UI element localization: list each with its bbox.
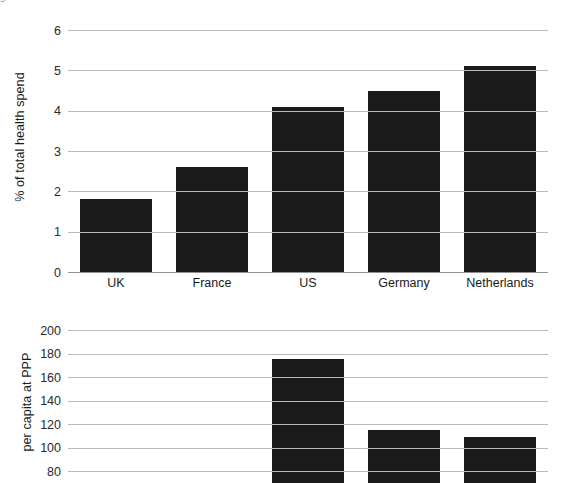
chart-per-capita-ppp: per capita at PPP 80100120140160180200 xyxy=(0,300,568,483)
plot-area-bottom: 80100120140160180200 xyxy=(68,330,548,483)
gridline: 5 xyxy=(68,70,548,71)
y-axis-label-top: % of total health spend xyxy=(13,67,27,207)
x-axis-tick-label: Netherlands xyxy=(452,276,548,290)
bar xyxy=(176,167,248,272)
gridline: 0 xyxy=(68,272,548,273)
gridline: 80 xyxy=(68,471,548,472)
x-axis-tick-label: Germany xyxy=(356,276,452,290)
y-axis-tick-label: 1 xyxy=(54,225,61,239)
x-axis-labels-top: UKFranceUSGermanyNetherlands xyxy=(68,276,548,298)
gridline: 2 xyxy=(68,191,548,192)
gridline: 180 xyxy=(68,354,548,355)
bar xyxy=(272,107,344,272)
y-axis-tick-label: 160 xyxy=(40,371,61,385)
y-axis-tick-label: 5 xyxy=(54,64,61,78)
gridline: 100 xyxy=(68,448,548,449)
chart-health-spend-share: % of total health spend 0123456 UKFrance… xyxy=(0,0,568,300)
y-axis-tick-label: 120 xyxy=(40,418,61,432)
gridline: 6 xyxy=(68,30,548,31)
gridline: 140 xyxy=(68,401,548,402)
y-axis-tick-label: 100 xyxy=(40,441,61,455)
y-axis-tick-label: 200 xyxy=(40,324,61,338)
y-axis-label-bottom: per capita at PPP xyxy=(20,327,34,477)
bar xyxy=(464,437,536,483)
x-axis-tick-label: US xyxy=(260,276,356,290)
bar xyxy=(80,199,152,272)
gridline: 200 xyxy=(68,330,548,331)
y-axis-tick-label: 140 xyxy=(40,394,61,408)
gridline: 160 xyxy=(68,377,548,378)
bar xyxy=(464,66,536,272)
plot-area-top: 0123456 xyxy=(68,30,548,272)
bar xyxy=(368,430,440,483)
y-axis-tick-label: 80 xyxy=(47,465,61,479)
y-axis-tick-label: 0 xyxy=(54,266,61,280)
gridline: 3 xyxy=(68,151,548,152)
y-axis-tick-label: 6 xyxy=(54,24,61,38)
gridline: 4 xyxy=(68,111,548,112)
y-axis-tick-label: 4 xyxy=(54,104,61,118)
gridline: 120 xyxy=(68,424,548,425)
gridline: 1 xyxy=(68,232,548,233)
y-axis-tick-label: 2 xyxy=(54,185,61,199)
x-axis-tick-label: France xyxy=(164,276,260,290)
x-axis-tick-label: UK xyxy=(68,276,164,290)
y-axis-tick-label: 3 xyxy=(54,145,61,159)
bar xyxy=(368,91,440,273)
y-axis-tick-label: 180 xyxy=(40,347,61,361)
